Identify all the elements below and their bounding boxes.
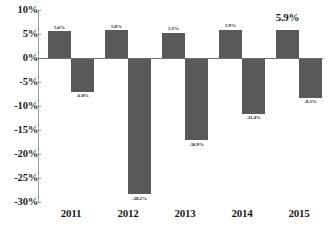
chart-caption — [0, 226, 333, 239]
bar-negative-2011 — [71, 59, 94, 92]
bar-label-negative-2011: -6.8% — [65, 93, 100, 98]
bar-negative-2013 — [185, 59, 208, 140]
bar-label-positive-2011: 5.6% — [42, 25, 77, 30]
bar-positive-2015 — [276, 30, 299, 58]
y-axis-tick-mark — [38, 10, 41, 11]
y-axis-tick-mark — [38, 34, 41, 35]
bar-negative-2012 — [128, 59, 151, 194]
y-axis-tick-label: -20% — [2, 149, 38, 160]
y-axis-tick-mark — [38, 130, 41, 131]
y-axis-tick-label: 0% — [2, 53, 38, 64]
x-axis-label-2012: 2012 — [105, 207, 151, 219]
y-axis-tick-label: -10% — [2, 101, 38, 112]
bar-negative-2014 — [242, 59, 265, 114]
bar-label-negative-2014: -11.4% — [236, 115, 271, 120]
bar-chart: 10% 5% 0% -5% -10% -15% -20% -25% -30% 5… — [0, 0, 333, 239]
bar-positive-2012 — [105, 30, 128, 58]
y-axis-tick-mark — [38, 106, 41, 107]
bar-positive-2011 — [48, 31, 71, 58]
bar-negative-2015 — [299, 59, 322, 98]
y-axis-tick-mark — [38, 178, 41, 179]
x-axis-label-2013: 2013 — [162, 207, 208, 219]
y-axis-tick-label: -30% — [2, 197, 38, 208]
y-axis-tick-label: -25% — [2, 173, 38, 184]
bar-label-negative-2012: -28.2% — [122, 196, 157, 201]
bar-positive-2014 — [219, 30, 242, 58]
bar-positive-2013 — [162, 33, 185, 58]
y-axis: 10% 5% 0% -5% -10% -15% -20% -25% -30% — [0, 0, 38, 239]
bar-label-positive-2013: 5.3% — [156, 26, 191, 31]
bar-label-negative-2013: -16.9% — [179, 142, 214, 147]
bar-label-negative-2015: -8.1% — [293, 99, 328, 104]
bar-label-positive-2015: 5.9% — [263, 12, 312, 23]
x-axis-label-2011: 2011 — [48, 207, 94, 219]
y-axis-tick-mark — [38, 154, 41, 155]
y-axis-tick-mark — [38, 82, 41, 83]
y-axis-tick-mark — [38, 202, 41, 203]
y-axis-tick-label: -15% — [2, 125, 38, 136]
x-axis-label-2015: 2015 — [276, 207, 322, 219]
y-axis-tick-label: -5% — [2, 77, 38, 88]
bar-label-positive-2012: 5.8% — [99, 24, 134, 29]
x-axis-label-2014: 2014 — [219, 207, 265, 219]
bar-label-positive-2014: 5.9% — [213, 23, 248, 28]
y-axis-tick-label: 5% — [2, 29, 38, 40]
y-axis-tick-label: 10% — [2, 5, 38, 16]
